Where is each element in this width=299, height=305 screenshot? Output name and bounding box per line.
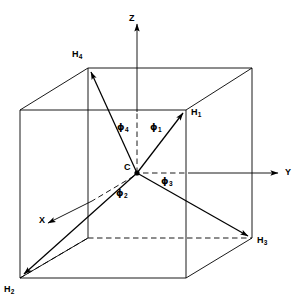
- angle-symbol-phi2: ϕ: [116, 187, 124, 198]
- angle-symbol-phi3: ϕ: [161, 175, 169, 186]
- center-atom-label: C: [124, 163, 131, 172]
- atom-index-h3: 3: [264, 239, 268, 246]
- cube-front-face: [20, 110, 186, 278]
- center-atom-dot: [134, 170, 139, 175]
- cube-tetrahedron-svg: [0, 0, 299, 305]
- angle-label-phi3: ϕ3: [161, 176, 172, 186]
- axis-label-z: Z: [129, 14, 135, 23]
- atom-label-h2: H2: [4, 285, 14, 294]
- angle-index-phi4: 4: [125, 126, 129, 133]
- atom-label-h1: H1: [191, 108, 201, 117]
- angle-symbol-phi1: ϕ: [150, 121, 158, 132]
- atom-index-h2: 2: [11, 288, 15, 295]
- atom-element-h4: H: [72, 49, 79, 59]
- atom-label-h4: H4: [72, 50, 82, 59]
- axis-x: [48, 176, 134, 223]
- h2-projection-line: [20, 238, 88, 278]
- angle-label-phi2: ϕ2: [116, 188, 127, 198]
- atom-index-h1: 1: [198, 111, 202, 118]
- axis-label-x: X: [39, 216, 45, 225]
- atom-element-h1: H: [191, 107, 198, 117]
- atom-index-h4: 4: [79, 53, 83, 60]
- angle-label-phi4: ϕ4: [117, 122, 128, 132]
- angle-index-phi1: 1: [158, 126, 162, 133]
- axis-label-y: Y: [285, 168, 291, 177]
- angle-index-phi2: 2: [124, 192, 128, 199]
- figure-canvas: Z Y X C H1 H2 H3 H4 ϕ1 ϕ2 ϕ3 ϕ4: [0, 0, 299, 305]
- atom-element-h2: H: [4, 284, 11, 294]
- angle-label-phi1: ϕ1: [150, 122, 161, 132]
- angle-symbol-phi4: ϕ: [117, 121, 125, 132]
- bond-c-h3: [137, 173, 248, 236]
- atom-element-h3: H: [257, 235, 264, 245]
- bond-c-h4: [91, 72, 137, 173]
- atom-label-h3: H3: [257, 236, 267, 245]
- angle-index-phi3: 3: [169, 180, 173, 187]
